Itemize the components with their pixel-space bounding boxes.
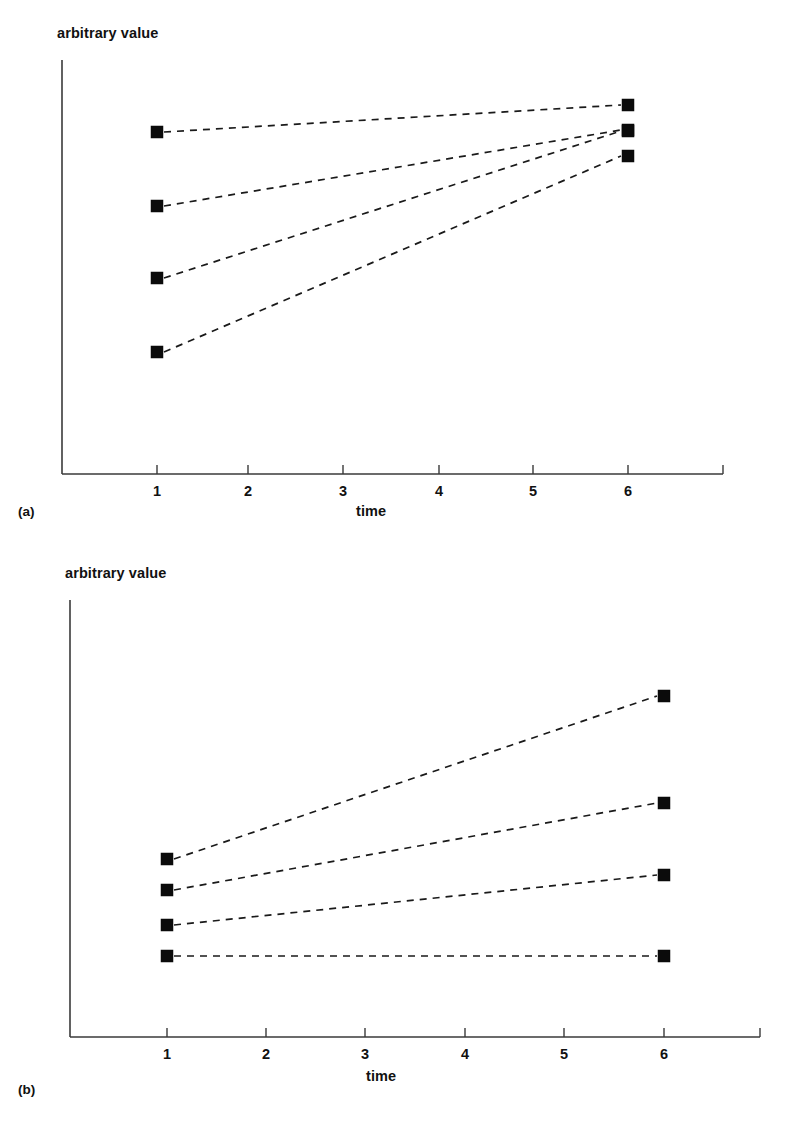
panel-a-caption: (a) — [18, 504, 35, 519]
data-marker-series-3-t6 — [658, 869, 670, 881]
panel-b-x-axis-label: time — [366, 1068, 396, 1084]
series-line-4 — [164, 156, 621, 352]
data-marker-series-4-t1 — [151, 346, 163, 358]
series-line-3 — [174, 875, 657, 925]
series-line-2 — [164, 130, 621, 206]
x-tick-label-6: 6 — [616, 483, 640, 499]
series-line-1 — [164, 105, 621, 132]
x-tick-label-2: 2 — [236, 483, 260, 499]
x-tick-label-3: 3 — [331, 483, 355, 499]
x-tick-label-2: 2 — [254, 1046, 278, 1062]
x-tick-label-3: 3 — [353, 1046, 377, 1062]
x-tick-label-4: 4 — [453, 1046, 477, 1062]
data-marker-series-2-t1 — [161, 884, 173, 896]
panel-a-plot — [0, 0, 795, 530]
panel-b-caption: (b) — [18, 1082, 35, 1097]
series-line-1 — [174, 696, 657, 859]
panel-b-y-axis-label: arbitrary value — [65, 565, 166, 581]
series-line-3 — [164, 131, 621, 278]
x-tick-label-5: 5 — [521, 483, 545, 499]
data-marker-series-1-t6 — [622, 99, 634, 111]
x-tick-label-4: 4 — [427, 483, 451, 499]
data-marker-series-2-t1 — [151, 200, 163, 212]
data-marker-series-4-t1 — [161, 950, 173, 962]
data-marker-series-2-t6 — [658, 797, 670, 809]
data-marker-series-3-t1 — [161, 919, 173, 931]
x-tick-label-5: 5 — [552, 1046, 576, 1062]
data-marker-series-3-t6 — [622, 125, 634, 137]
data-marker-series-4-t6 — [658, 950, 670, 962]
panel-a-x-axis-label: time — [356, 503, 386, 519]
data-marker-series-3-t1 — [151, 272, 163, 284]
data-marker-series-1-t1 — [151, 126, 163, 138]
panel-b-plot — [0, 530, 795, 1127]
series-line-2 — [174, 803, 657, 890]
figure-root: arbitrary value time (a) 123456 arbitrar… — [0, 0, 795, 1127]
data-marker-series-4-t6 — [622, 150, 634, 162]
x-tick-label-1: 1 — [155, 1046, 179, 1062]
data-marker-series-1-t6 — [658, 690, 670, 702]
data-marker-series-1-t1 — [161, 853, 173, 865]
x-tick-label-1: 1 — [145, 483, 169, 499]
panel-a-y-axis-label: arbitrary value — [57, 25, 158, 41]
x-tick-label-6: 6 — [652, 1046, 676, 1062]
panel-b: arbitrary value time (b) 123456 — [0, 530, 795, 1127]
panel-a: arbitrary value time (a) 123456 — [0, 0, 795, 530]
